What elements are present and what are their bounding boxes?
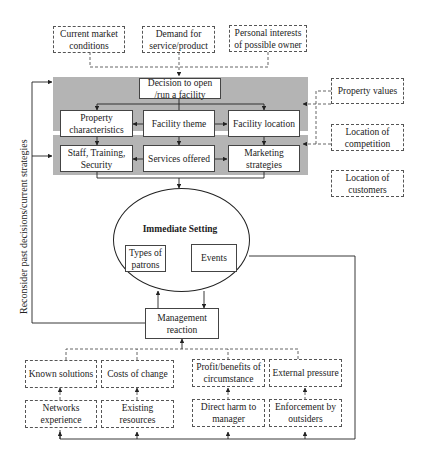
enforcement-box: Enforcement by outsiders — [269, 399, 342, 427]
immediate-setting-title: Immediate Setting — [130, 224, 230, 234]
staff-training-security-box: Staff, Training, Security — [60, 145, 133, 172]
known-solutions-box: Known solutions — [25, 360, 97, 388]
location-of-competition-box: Location of competition — [331, 124, 404, 151]
personal-interests-box: Personal interests of possible owner — [229, 25, 307, 52]
services-offered-box: Services offered — [143, 145, 215, 172]
costs-of-change-box: Costs of change — [101, 360, 174, 388]
facility-location-box: Facility location — [228, 110, 300, 137]
current-market-conditions-box: Current market conditions — [53, 26, 125, 53]
marketing-strategies-box: Marketing strategies — [228, 145, 300, 172]
types-of-patrons-box: Types of patrons — [125, 245, 166, 272]
management-model-diagram: Current market conditions Demand for ser… — [0, 0, 422, 456]
profit-benefits-box: Profit/benefits of circumstance — [192, 359, 265, 387]
feedback-label: Reconsider past decisions/current strate… — [18, 139, 29, 314]
networks-experience-box: Networks experience — [25, 400, 97, 428]
property-characteristics-box: Property characteristics — [60, 110, 133, 137]
immediate-setting-ellipse — [113, 188, 250, 292]
property-values-box: Property values — [331, 78, 404, 104]
external-pressure-box: External pressure — [269, 359, 342, 387]
direct-harm-box: Direct harm to manager — [192, 399, 265, 427]
location-of-customers-box: Location of customers — [331, 170, 404, 197]
events-box: Events — [191, 244, 237, 272]
decision-box: Decision to open /run a facility — [139, 78, 221, 99]
demand-box: Demand for service/product — [142, 26, 215, 53]
facility-theme-box: Facility theme — [143, 110, 215, 137]
management-reaction-box: Management reaction — [145, 308, 219, 339]
existing-resources-box: Existing resources — [101, 400, 174, 428]
